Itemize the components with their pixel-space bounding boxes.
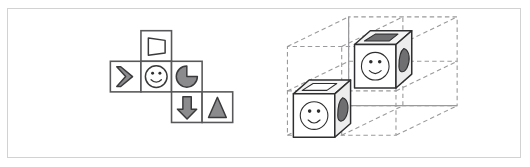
smiley-left-eye xyxy=(151,72,154,75)
screenshot-root xyxy=(0,0,530,167)
wireframe-edge-tl xyxy=(287,17,348,47)
cube-net-svg xyxy=(8,9,266,157)
three-d-grid-svg xyxy=(266,9,522,157)
figure-frame xyxy=(7,8,521,158)
symbol-cube-lower[interactable] xyxy=(293,80,350,137)
cube-upper-smiley-face-icon xyxy=(361,52,389,80)
wireframe-edge-br xyxy=(396,106,457,136)
symbol-cube-upper[interactable] xyxy=(355,31,412,88)
cube-lower-smiley-face-icon xyxy=(300,102,328,130)
smiley-right-eye xyxy=(158,72,161,75)
smiley-face-icon xyxy=(145,66,167,88)
cube-net-panel xyxy=(8,9,266,157)
three-d-grid-panel xyxy=(266,9,522,157)
trapezoid-outline-icon xyxy=(148,38,165,55)
